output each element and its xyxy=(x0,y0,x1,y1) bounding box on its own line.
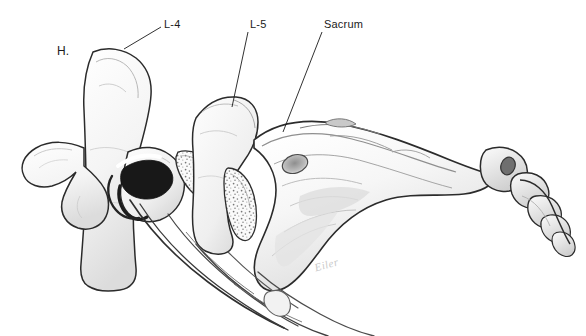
label-sacrum: Sacrum xyxy=(324,19,363,30)
sacral-notch xyxy=(326,119,356,127)
leader-line-l5 xyxy=(232,32,248,107)
leader-line-l4 xyxy=(124,27,161,49)
label-h: H. xyxy=(57,45,69,57)
label-l5: L-5 xyxy=(250,19,267,30)
transverse-process-tip xyxy=(264,290,290,316)
label-l4: L-4 xyxy=(164,19,181,30)
coccyx-segments xyxy=(511,173,575,257)
anatomy-drawing xyxy=(0,0,586,336)
sacrum-body xyxy=(254,121,498,291)
anatomical-illustration: H. L-4 L-5 Sacrum Eiler xyxy=(0,0,586,336)
leader-line-sacrum xyxy=(283,32,322,132)
